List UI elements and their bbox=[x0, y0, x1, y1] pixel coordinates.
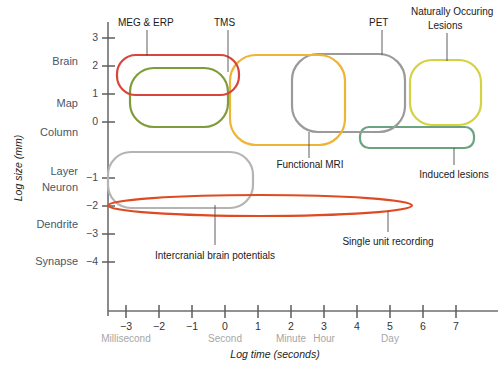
y-axis-title: Log size (mm) bbox=[12, 135, 24, 202]
y-tick-label-neg1: −1 bbox=[86, 171, 98, 183]
callout-tms: TMS bbox=[214, 17, 235, 72]
x-category-minute: Minute bbox=[276, 333, 306, 344]
callout-label-naturally-occurring-line1: Naturally Occuring bbox=[411, 6, 493, 17]
y-axis-tick-labels: 3 2 1 0 −1 −2 −3 −4 bbox=[86, 31, 98, 267]
y-tick-label-3: 3 bbox=[92, 31, 98, 43]
region-induced-lesions[interactable] bbox=[360, 127, 474, 148]
region-naturally-occurring-lesions[interactable] bbox=[410, 60, 481, 125]
x-category-millisecond: Millisecond bbox=[101, 333, 150, 344]
y-tick-label-neg4: −4 bbox=[86, 255, 98, 267]
y-category-brain: Brain bbox=[52, 55, 78, 67]
x-category-hour: Hour bbox=[313, 333, 335, 344]
x-axis-title: Log time (seconds) bbox=[230, 348, 319, 360]
callout-label-intercranial: Intercranial brain potentials bbox=[155, 250, 275, 261]
y-category-map: Map bbox=[57, 97, 78, 109]
callout-label-functional-mri: Functional MRI bbox=[276, 159, 343, 170]
callout-pet: PET bbox=[369, 17, 388, 55]
callout-label-pet: PET bbox=[369, 17, 388, 28]
callout-functional-mri: Functional MRI bbox=[276, 132, 343, 170]
x-tick-label-6: 6 bbox=[420, 320, 426, 332]
x-tick-label-5: 5 bbox=[387, 320, 393, 332]
y-axis-category-labels: Brain Map Column Layer Neuron Dendrite S… bbox=[35, 55, 78, 267]
y-category-synapse: Synapse bbox=[35, 255, 78, 267]
y-tick-label-1: 1 bbox=[92, 87, 98, 99]
x-tick-label-neg2: −2 bbox=[153, 320, 165, 332]
callout-induced-lesions: Induced lesions bbox=[419, 148, 489, 180]
x-tick-label-3: 3 bbox=[321, 320, 327, 332]
x-tick-label-4: 4 bbox=[354, 320, 360, 332]
callout-label-meg-erp: MEG & ERP bbox=[118, 17, 174, 28]
x-tick-label-2: 2 bbox=[288, 320, 294, 332]
x-axis-tick-labels: −3 −2 −1 0 1 2 3 4 5 6 7 bbox=[120, 320, 459, 332]
y-tick-label-neg2: −2 bbox=[86, 199, 98, 211]
callout-single-unit-recording: Single unit recording bbox=[342, 211, 433, 247]
x-category-day: Day bbox=[381, 333, 399, 344]
brain-methods-scatter-chart: 3 2 1 0 −1 −2 −3 −4 Brain Map Column Lay… bbox=[0, 0, 501, 372]
x-tick-label-neg1: −1 bbox=[186, 320, 198, 332]
callout-label-induced-lesions: Induced lesions bbox=[419, 169, 489, 180]
y-category-dendrite: Dendrite bbox=[36, 218, 78, 230]
callout-naturally-occurring-lesions: Naturally Occuring Lesions bbox=[411, 6, 493, 61]
y-tick-label-2: 2 bbox=[92, 59, 98, 71]
callout-label-tms: TMS bbox=[214, 17, 235, 28]
x-tick-label-1: 1 bbox=[255, 320, 261, 332]
callout-meg-erp: MEG & ERP bbox=[118, 17, 174, 56]
y-tick-label-neg3: −3 bbox=[86, 227, 98, 239]
x-tick-label-7: 7 bbox=[453, 320, 459, 332]
x-tick-label-0: 0 bbox=[222, 320, 228, 332]
callout-label-single-unit: Single unit recording bbox=[342, 236, 433, 247]
region-single-unit-recording[interactable] bbox=[108, 195, 412, 216]
y-category-layer: Layer bbox=[50, 165, 78, 177]
region-functional-mri-pet[interactable] bbox=[292, 54, 405, 132]
x-category-second: Second bbox=[208, 333, 242, 344]
x-axis-category-labels: Millisecond Second Minute Hour Day Log t… bbox=[101, 333, 399, 360]
region-intercranial-green[interactable] bbox=[130, 68, 228, 127]
y-category-column: Column bbox=[40, 126, 78, 138]
y-category-neuron: Neuron bbox=[42, 181, 78, 193]
figure-canvas: 3 2 1 0 −1 −2 −3 −4 Brain Map Column Lay… bbox=[0, 0, 501, 372]
y-tick-label-0: 0 bbox=[92, 115, 98, 127]
x-tick-label-neg3: −3 bbox=[120, 320, 132, 332]
callout-label-naturally-occurring-line2: Lesions bbox=[428, 20, 462, 31]
